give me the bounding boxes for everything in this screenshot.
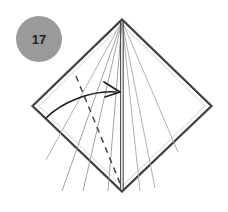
origami-step-figure: 17 [0, 0, 228, 212]
step-number-badge: 17 [16, 16, 62, 62]
origami-diagram-canvas: 17 [0, 0, 228, 212]
step-badge-label: 17 [32, 32, 46, 47]
